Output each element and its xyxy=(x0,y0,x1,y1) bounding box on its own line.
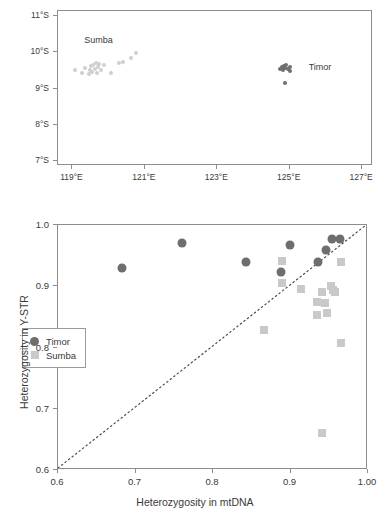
scatter-ytick-label-0: 0.6 xyxy=(36,464,49,475)
scatter-ytick-mark-1 xyxy=(53,408,57,409)
map-xtick-label-4: 127°E xyxy=(349,172,372,182)
scatter-xtick-label-2: 0.8 xyxy=(205,476,218,487)
data-point-sumba-6 xyxy=(318,288,326,296)
map-xtick-label-3: 125°E xyxy=(277,172,300,182)
scatter-ytick-label-2: 0.8 xyxy=(36,341,49,352)
map-point-timor-8 xyxy=(288,65,292,69)
map-point-sumba-12 xyxy=(97,62,101,66)
map-ytick-label-1: 8°S xyxy=(35,119,49,129)
sampling-location-map-panel: SumbaTimor119°E121°E123°E125°E127°E7°S8°… xyxy=(0,0,390,196)
data-point-sumba-1 xyxy=(278,257,286,265)
map-ytick-mark-1 xyxy=(53,124,57,125)
map-xtick-mark-4 xyxy=(361,165,362,169)
data-point-timor-4 xyxy=(285,241,294,250)
map-point-sumba-14 xyxy=(102,63,106,67)
map-ytick-mark-0 xyxy=(53,160,57,161)
scatter-xtick-label-1: 0.7 xyxy=(128,476,141,487)
scatter-plot-area xyxy=(57,224,367,469)
map-point-timor-9 xyxy=(283,81,287,85)
map-point-sumba-17 xyxy=(121,60,125,64)
heterozygosity-scatter-panel: Timor Sumba Heterozygosity in mtDNA Hete… xyxy=(0,200,390,519)
map-xtick-mark-1 xyxy=(144,165,145,169)
scatter-xtick-label-0: 0.6 xyxy=(50,476,63,487)
data-point-sumba-2 xyxy=(278,279,286,287)
scatter-xtick-mark-4 xyxy=(367,469,368,473)
map-point-sumba-19 xyxy=(134,51,138,55)
data-point-timor-0 xyxy=(118,263,127,272)
map-ytick-label-2: 9°S xyxy=(35,83,49,93)
scatter-xtick-mark-3 xyxy=(290,469,291,473)
map-point-sumba-0 xyxy=(73,68,77,72)
map-region-label-sumba: Sumba xyxy=(84,35,113,45)
scatter-xtick-mark-1 xyxy=(135,469,136,473)
scatter-ytick-mark-0 xyxy=(53,469,57,470)
legend-label-timor: Timor xyxy=(46,336,70,347)
data-point-sumba-3 xyxy=(297,285,305,293)
map-ytick-label-3: 10°S xyxy=(30,46,49,56)
map-ytick-label-4: 11°S xyxy=(31,10,49,20)
scatter-xtick-label-3: 0.9 xyxy=(283,476,296,487)
scatter-ytick-label-4: 1.0 xyxy=(36,219,49,230)
map-ytick-mark-3 xyxy=(53,51,57,52)
map-xtick-label-2: 123°E xyxy=(205,172,228,182)
scatter-legend: Timor Sumba xyxy=(22,328,86,368)
map-xtick-mark-2 xyxy=(216,165,217,169)
map-point-sumba-15 xyxy=(109,71,113,75)
map-point-sumba-10 xyxy=(95,71,99,75)
data-point-sumba-0 xyxy=(260,326,268,334)
legend-marker-sumba-square-icon xyxy=(31,351,39,359)
data-point-sumba-13 xyxy=(337,339,345,347)
data-point-sumba-14 xyxy=(318,429,326,437)
scatter-xtick-mark-0 xyxy=(57,469,58,473)
map-plot-area xyxy=(57,10,372,165)
scatter-ytick-mark-4 xyxy=(53,224,57,225)
legend-label-sumba: Sumba xyxy=(46,350,76,361)
map-point-sumba-18 xyxy=(129,56,133,60)
data-point-timor-1 xyxy=(178,239,187,248)
map-point-sumba-1 xyxy=(80,71,84,75)
map-region-label-timor: Timor xyxy=(309,62,332,72)
map-point-sumba-2 xyxy=(83,66,87,70)
map-xtick-mark-0 xyxy=(71,165,72,169)
scatter-xtick-label-4: 1.00 xyxy=(358,476,377,487)
scatter-ytick-mark-3 xyxy=(53,285,57,286)
data-point-sumba-7 xyxy=(321,299,329,307)
figure-root: SumbaTimor119°E121°E123°E125°E127°E7°S8°… xyxy=(0,0,390,519)
data-point-timor-3 xyxy=(277,268,286,277)
map-point-sumba-13 xyxy=(99,68,103,72)
scatter-x-axis-title: Heterozygosity in mtDNA xyxy=(0,496,390,508)
scatter-y-axis-title: Heterozygosity in Y-STR xyxy=(18,252,30,452)
scatter-ytick-mark-2 xyxy=(53,347,57,348)
data-point-timor-6 xyxy=(322,246,331,255)
map-xtick-label-0: 119°E xyxy=(60,172,83,182)
map-ytick-label-0: 7°S xyxy=(35,155,49,165)
data-point-timor-2 xyxy=(241,257,250,266)
data-point-timor-8 xyxy=(336,235,345,244)
scatter-ytick-label-3: 0.9 xyxy=(36,280,49,291)
data-point-sumba-5 xyxy=(313,311,321,319)
data-point-sumba-12 xyxy=(337,258,345,266)
data-point-timor-5 xyxy=(314,257,323,266)
map-ytick-mark-4 xyxy=(53,15,57,16)
scatter-xtick-mark-2 xyxy=(212,469,213,473)
data-point-sumba-11 xyxy=(331,288,339,296)
map-ytick-mark-2 xyxy=(53,88,57,89)
data-point-sumba-8 xyxy=(323,309,331,317)
map-point-timor-7 xyxy=(288,69,292,73)
scatter-ytick-label-1: 0.7 xyxy=(36,402,49,413)
map-xtick-label-1: 121°E xyxy=(132,172,155,182)
map-xtick-mark-3 xyxy=(289,165,290,169)
